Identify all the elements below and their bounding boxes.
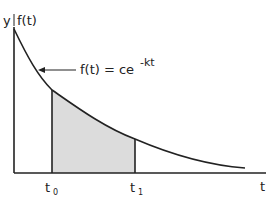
bound-label-t1: t [130,180,135,195]
arrow-head-icon [38,67,45,73]
equation-exponent: -kt [140,56,155,69]
x-axis-label: t [260,179,265,194]
exponential-decay-diagram: y f(t) f(t) = ce -kt t 0 t 1 t [0,0,274,204]
bound-label-t0: t [45,180,50,195]
function-label: f(t) [17,13,37,28]
bound-subscript-t1: 1 [138,188,143,197]
equation-label: f(t) = ce [80,62,134,77]
y-axis-label: y [3,13,11,28]
shaded-area [52,90,135,173]
bound-subscript-t0: 0 [53,188,58,197]
